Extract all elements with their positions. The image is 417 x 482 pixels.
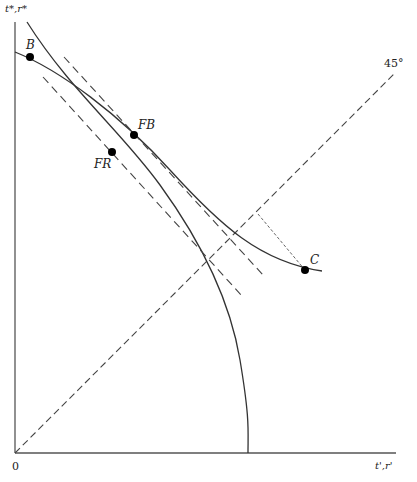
diagram-canvas xyxy=(0,0,417,482)
point-fr xyxy=(108,148,116,156)
line-45-label: 45° xyxy=(384,57,404,70)
origin-label: 0 xyxy=(12,460,19,473)
y-axis-label: t*,r* xyxy=(5,3,27,14)
reaction-curve-shallow xyxy=(15,52,322,271)
line-45-degree xyxy=(15,72,396,453)
point-c xyxy=(301,266,309,274)
point-fb xyxy=(130,131,138,139)
reaction-curve-steep xyxy=(27,22,248,453)
point-b xyxy=(26,53,34,61)
point-c-label: C xyxy=(310,253,319,267)
tangent-line-lower xyxy=(43,77,242,296)
projection-line-c xyxy=(258,214,305,270)
point-b-label: B xyxy=(26,38,35,52)
point-fr-label: FR xyxy=(94,157,111,171)
point-fb-label: FB xyxy=(138,118,155,132)
x-axis-label: t',r' xyxy=(375,460,392,471)
